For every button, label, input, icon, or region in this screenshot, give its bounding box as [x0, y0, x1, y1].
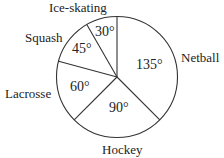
value-hockey: 90° [109, 101, 129, 115]
label-lacrosse: Lacrosse [5, 87, 51, 100]
label-netball: Netball [181, 51, 219, 64]
label-squash: Squash [25, 31, 63, 44]
value-netball: 135° [136, 58, 163, 72]
value-squash: 45° [72, 42, 92, 56]
value-lacrosse: 60° [70, 80, 90, 94]
value-ice-skating: 30° [95, 25, 115, 39]
label-hockey: Hockey [102, 143, 142, 156]
label-ice-skating: Ice-skating [49, 1, 107, 14]
